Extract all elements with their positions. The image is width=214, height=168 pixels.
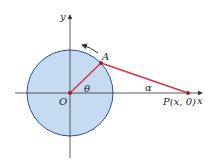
point-p — [186, 91, 190, 95]
theta-label: θ — [84, 83, 90, 94]
point-p-label: P(x, 0) — [162, 96, 196, 107]
diagram-canvas: y x A O θ α P(x, 0) — [0, 0, 214, 168]
origin-label: O — [59, 96, 67, 107]
y-axis-label: y — [59, 11, 66, 22]
point-a-label: A — [101, 51, 109, 62]
x-axis-label: x — [197, 95, 203, 106]
point-o — [68, 91, 72, 95]
alpha-label: α — [145, 82, 152, 93]
rotation-arrow-icon — [82, 45, 98, 53]
